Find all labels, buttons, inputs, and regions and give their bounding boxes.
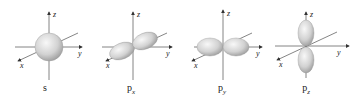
svg-text:z: z [226,9,231,18]
orbital-panel-px: z y x px [90,0,180,100]
svg-text:x: x [105,61,110,70]
svg-text:z: z [136,10,141,19]
svg-text:y: y [77,49,82,58]
orbital-label-px: px [86,82,176,96]
svg-text:x: x [19,61,24,70]
orbital-panel-s: z y x s [0,0,90,100]
orbital-panel-pz: z y x pz [267,0,357,100]
orbital-label-py: py [177,82,267,96]
svg-text:y: y [336,48,341,57]
svg-text:x: x [278,60,283,69]
svg-text:z: z [309,10,314,19]
orbital-label-s: s [0,82,90,93]
svg-text:y: y [255,49,260,58]
svg-text:y: y [165,49,170,58]
orbital-label-pz: pz [261,82,351,96]
svg-text:x: x [193,61,198,70]
orbital-panel-py: z y x py [180,0,270,100]
svg-text:z: z [52,10,57,19]
